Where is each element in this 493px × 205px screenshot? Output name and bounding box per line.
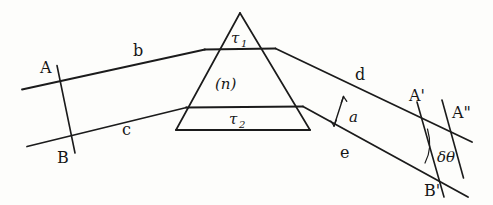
prism-chord-tau1 (205, 49, 276, 50)
label-tau2-symbol: τ (229, 110, 238, 128)
beam-width-arrow (331, 97, 347, 127)
incoming-ray-c (27, 108, 187, 147)
label-ray-e: e (340, 143, 349, 162)
label-ray-c: c (122, 120, 131, 139)
figure-canvas: τ 1 (n) τ 2 b c d e a A B A' A" B' δθ (0, 0, 493, 205)
label-ray-d: d (355, 65, 365, 84)
prism-outline (176, 13, 310, 130)
label-point-B-prime: B' (424, 181, 440, 200)
label-beam-width: a (349, 108, 358, 126)
label-point-A-prime: A' (408, 86, 425, 105)
label-tau2-subscript: 2 (238, 119, 245, 130)
label-point-A-double-prime: A" (451, 103, 471, 122)
label-ray-b: b (133, 41, 143, 60)
label-tau1-subscript: 1 (241, 38, 247, 49)
label-refractive-index: (n) (215, 75, 237, 93)
prism-chord-tau2 (186, 107, 303, 108)
prism-refraction-figure: τ 1 (n) τ 2 b c d e a A B A' A" B' δθ (0, 0, 493, 205)
label-tau1: τ 1 (231, 29, 247, 49)
label-point-A: A (39, 58, 52, 77)
label-tau2: τ 2 (229, 110, 245, 130)
label-point-B: B (57, 148, 69, 167)
outgoing-ray-d (276, 49, 473, 143)
label-deviation-angle: δθ (437, 148, 455, 166)
label-tau1-symbol: τ (231, 29, 240, 47)
